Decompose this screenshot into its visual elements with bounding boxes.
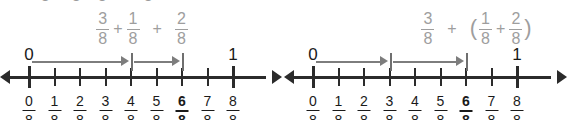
- fraction-denominator: 8: [513, 113, 521, 120]
- fraction-numerator: 6: [462, 94, 470, 108]
- fraction-label-group: 081828384858687888: [0, 94, 284, 120]
- hop-endpoint-marker: [466, 53, 468, 71]
- axis-fraction-label: 68: [460, 94, 473, 120]
- axis-fraction-label: 28: [74, 94, 87, 120]
- fraction-denominator: 8: [178, 113, 186, 120]
- fraction-numerator: 1: [335, 94, 343, 108]
- hop-endpoint-marker: [182, 53, 184, 71]
- tick-mark: [105, 68, 107, 86]
- fraction-numerator: 6: [178, 94, 186, 108]
- hop-arrow-shaft: [134, 61, 173, 63]
- fraction-numerator: 8: [229, 94, 237, 108]
- operator-plus: +: [435, 21, 468, 37]
- hop-arrowhead-icon: [456, 56, 464, 66]
- fraction-denominator: 8: [76, 113, 84, 120]
- axis-fraction-label: 48: [125, 94, 138, 120]
- clipped-digit: 8: [98, 0, 106, 3]
- fraction-numerator: 2: [509, 11, 522, 28]
- fraction-denominator: 8: [127, 113, 135, 120]
- fraction-numerator: 2: [76, 94, 84, 108]
- fraction-denominator: 8: [421, 31, 434, 48]
- endpoint-label-one: 1: [512, 46, 521, 63]
- fraction-denominator: 8: [309, 113, 317, 120]
- axis-fraction-label: 38: [383, 94, 396, 120]
- fraction-denominator: 8: [462, 113, 470, 120]
- operator-plus: +: [493, 21, 508, 37]
- paren-close: ): [523, 17, 532, 39]
- clipped-fraction-row: 8888: [0, 0, 284, 10]
- fraction-2-over-8: 28: [509, 11, 522, 48]
- tick-mark: [54, 68, 56, 86]
- axis-fraction-label: 88: [227, 94, 240, 120]
- fraction-numerator: 1: [127, 11, 140, 28]
- endpoint-label-zero: 0: [308, 46, 317, 63]
- axis-fraction-label: 48: [409, 94, 422, 120]
- axis-fraction-label: 88: [511, 94, 524, 120]
- fraction-numerator: 4: [411, 94, 419, 108]
- endpoint-label-one: 1: [228, 46, 237, 63]
- axis-arrow-right-icon: [272, 70, 282, 84]
- fraction-1-over-8: 18: [479, 11, 492, 48]
- fraction-denominator: 8: [488, 113, 496, 120]
- fraction-denominator: 8: [153, 113, 161, 120]
- fraction-denominator: 8: [229, 113, 237, 120]
- fraction-denominator: 8: [479, 31, 492, 48]
- axis-fraction-label: 38: [99, 94, 112, 120]
- fraction-1-over-8: 18: [127, 11, 140, 48]
- tick-mark: [207, 68, 209, 86]
- fraction-denominator: 8: [411, 113, 419, 120]
- hop-arrowhead-icon: [380, 56, 388, 66]
- fraction-label-group: 081828384858687888: [284, 94, 569, 120]
- expression-left-tokens: 38+18+28: [95, 11, 189, 48]
- tick-mark: [79, 68, 81, 86]
- fraction-numerator: 2: [175, 11, 188, 28]
- number-line-left: 0 1 081828384858687888: [0, 48, 284, 120]
- fraction-denominator: 8: [335, 113, 343, 120]
- operator-plus: +: [141, 21, 174, 37]
- hop-arrow-shaft: [393, 61, 458, 63]
- tick-mark: [414, 68, 416, 86]
- hop-arrowhead-icon: [121, 56, 129, 66]
- axis-fraction-label: 18: [48, 94, 61, 120]
- fraction-numerator: 3: [96, 11, 109, 28]
- tick-mark: [338, 68, 340, 86]
- axis-fraction-label: 58: [434, 94, 447, 120]
- hop-arrowhead-icon: [172, 56, 180, 66]
- fraction-numerator: 7: [204, 94, 212, 108]
- axis-line: [8, 76, 266, 79]
- fraction-numerator: 5: [437, 94, 445, 108]
- fraction-denominator: 8: [386, 113, 394, 120]
- number-line-right: 0 1 081828384858687888: [284, 48, 569, 120]
- fraction-denominator: 8: [96, 31, 109, 48]
- fraction-numerator: 5: [153, 94, 161, 108]
- fraction-3-over-8: 38: [96, 11, 109, 48]
- fraction-2-over-8: 28: [175, 11, 188, 48]
- paren-open: (: [469, 17, 478, 39]
- expression-right: 38+(18+28): [284, 10, 569, 48]
- fraction-numerator: 0: [25, 94, 33, 108]
- fraction-numerator: 0: [309, 94, 317, 108]
- axis-fraction-label: 58: [150, 94, 163, 120]
- hop-endpoint-marker: [131, 53, 133, 71]
- fraction-denominator: 8: [102, 113, 110, 120]
- endpoint-label-zero: 0: [24, 46, 33, 63]
- fraction-denominator: 8: [437, 113, 445, 120]
- hop-arrow-shaft: [32, 61, 122, 63]
- clipped-digit: 8: [41, 0, 49, 3]
- tick-mark: [232, 66, 235, 88]
- operator-plus: +: [110, 21, 125, 37]
- axis-fraction-label: 68: [176, 94, 189, 120]
- axis-line: [292, 76, 551, 79]
- panel-right: 38+(18+28) 0 1 081828384858687888: [284, 0, 569, 120]
- fraction-numerator: 8: [513, 94, 521, 108]
- tick-mark: [363, 68, 365, 86]
- axis-fraction-label: 08: [307, 94, 320, 120]
- fraction-numerator: 3: [421, 11, 434, 28]
- hop-endpoint-marker: [390, 53, 392, 71]
- axis-fraction-label: 08: [23, 94, 36, 120]
- axis-arrow-right-icon: [557, 70, 567, 84]
- expression-right-tokens: 38+(18+28): [420, 11, 532, 48]
- hop-arrow-shaft: [316, 61, 381, 63]
- fraction-numerator: 1: [51, 94, 59, 108]
- axis-fraction-label: 28: [358, 94, 371, 120]
